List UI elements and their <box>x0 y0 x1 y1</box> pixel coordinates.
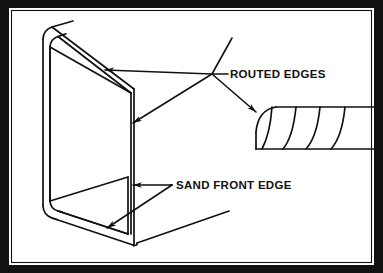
diagram-root: ROUTED EDGES SAND FRONT EDGE <box>0 0 383 273</box>
diagram-frame <box>0 0 383 273</box>
diagram-canvas: ROUTED EDGES SAND FRONT EDGE <box>0 0 383 273</box>
label-sand-front-edge: SAND FRONT EDGE <box>176 179 292 191</box>
panel-top-tick <box>64 34 66 35</box>
label-routed-edges: ROUTED EDGES <box>230 68 326 80</box>
